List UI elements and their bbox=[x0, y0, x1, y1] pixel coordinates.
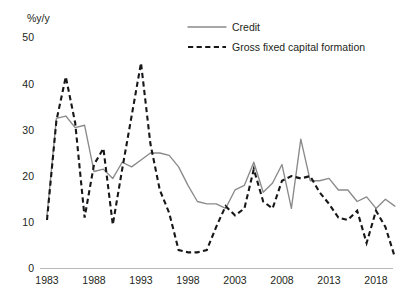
x-axis-tick-label: 1993 bbox=[129, 274, 153, 286]
chart-container: 50403020100 1983198819931998200320082013… bbox=[0, 0, 403, 301]
y-axis-tick-label: 0 bbox=[28, 262, 34, 274]
chart-legend: CreditGross fixed capital formation bbox=[188, 21, 365, 53]
y-axis-tick-label: 30 bbox=[22, 124, 34, 136]
x-axis-tick-label: 2018 bbox=[364, 274, 388, 286]
y-axis-tick-label: 20 bbox=[22, 170, 34, 182]
legend-label: Credit bbox=[232, 21, 260, 33]
x-axis-tick-label: 2003 bbox=[223, 274, 247, 286]
x-axis-tick-label: 1988 bbox=[82, 274, 106, 286]
x-axis-tick-labels: 19831988199319982003200820132018 bbox=[35, 274, 388, 286]
series-line-credit bbox=[47, 116, 395, 215]
x-axis-tick-label: 1998 bbox=[176, 274, 200, 286]
y-axis-tick-labels: 50403020100 bbox=[22, 31, 34, 274]
legend-label: Gross fixed capital formation bbox=[232, 41, 365, 53]
y-axis-unit-label: %y/y bbox=[27, 12, 51, 24]
y-axis-tick-label: 10 bbox=[22, 216, 34, 228]
x-axis-tick-label: 1983 bbox=[35, 274, 59, 286]
y-axis-tick-label: 40 bbox=[22, 78, 34, 90]
x-axis-tick-label: 2013 bbox=[317, 274, 341, 286]
x-axis-tick-label: 2008 bbox=[270, 274, 294, 286]
y-axis-tick-label: 50 bbox=[22, 31, 34, 43]
series-line-gross-fixed-capital-formation bbox=[47, 63, 395, 257]
line-chart: 50403020100 1983198819931998200320082013… bbox=[0, 0, 403, 301]
